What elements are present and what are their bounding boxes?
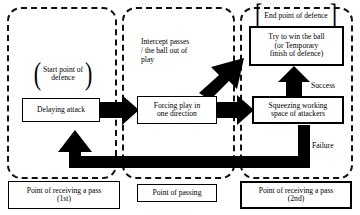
step-label-try-win-line3: finish of defence): [270, 49, 324, 58]
bracket-right-paren: ): [85, 61, 92, 87]
step-box-try-win-ball[interactable]: Try to win the ball (or Temporary finish…: [249, 26, 344, 66]
defence-flow-diagram: ( Start point of defence ) [ End point o…: [0, 0, 360, 215]
phase-label-box-1[interactable]: Point of receiving a pass (1st): [8, 181, 120, 209]
step-box-delaying-attack[interactable]: Delaying attack: [22, 98, 100, 122]
failure-text: Failure: [312, 141, 334, 150]
phase-1-line2: (1st): [57, 194, 71, 203]
phase-2-line1: Point of passing: [153, 189, 202, 198]
annotation-intercept-passes: Intercept passes / the ball out of play: [141, 38, 219, 65]
phase-3-line2: (2nd): [288, 194, 304, 203]
start-point-line2: defence: [51, 73, 75, 82]
bracket-left-square: [: [255, 3, 262, 29]
phase-label-box-3[interactable]: Point of receiving a pass (2nd): [240, 181, 352, 209]
phase-region-1: [7, 7, 117, 179]
bracket-right-square: ]: [330, 3, 337, 29]
phase-label-box-2[interactable]: Point of passing: [137, 184, 217, 202]
intercept-line1: Intercept passes: [141, 37, 189, 46]
edge-label-success: Success: [311, 81, 335, 90]
step-label-squeezing-line2: space of attackers: [271, 109, 325, 118]
step-box-squeezing-space[interactable]: Squeezing working space of attackers: [252, 96, 344, 124]
phase-region-2: [122, 7, 235, 179]
step-label-forcing-play-line2: one direction: [157, 109, 197, 118]
edge-label-failure: Failure: [312, 141, 334, 150]
intercept-line2: / the ball out of: [141, 46, 187, 55]
end-point-marker: [ End point of defence ]: [247, 8, 345, 24]
step-box-forcing-play[interactable]: Forcing play in one direction: [137, 96, 217, 124]
end-point-line1: End point of defence: [262, 12, 329, 21]
start-point-marker: ( Start point of defence ): [20, 58, 106, 90]
success-text: Success: [311, 81, 335, 90]
intercept-line3: play: [141, 55, 154, 64]
bracket-left-paren: (: [34, 61, 41, 87]
step-label-delaying-attack: Delaying attack: [37, 106, 85, 115]
